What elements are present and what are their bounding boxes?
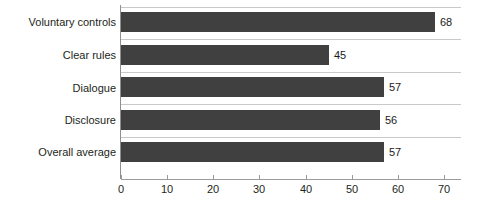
x-tick-label-70: 70 (438, 183, 450, 195)
bar-dialogue (121, 77, 384, 97)
x-tick-mark (398, 175, 399, 180)
x-tick-label-30: 30 (253, 183, 265, 195)
category-label-dialogue: Dialogue (2, 82, 116, 94)
bar-value-label: 68 (435, 16, 452, 28)
x-tick-label-50: 50 (346, 183, 358, 195)
bar-chart: Voluntary controls Clear rules Dialogue … (0, 0, 484, 211)
category-label-overall-average: Overall average (2, 146, 116, 158)
plot-area: 68 45 57 56 57 (121, 0, 461, 180)
gridline (121, 137, 461, 138)
x-tick-label-20: 20 (207, 183, 219, 195)
bar-value-label: 56 (380, 114, 397, 126)
x-tick-mark (167, 175, 168, 180)
x-tick-mark (213, 175, 214, 180)
bar-value-label: 57 (384, 146, 401, 158)
x-tick-label-10: 10 (161, 183, 173, 195)
bar-disclosure (121, 110, 380, 130)
bar-voluntary-controls (121, 12, 435, 32)
x-axis-line (121, 179, 461, 180)
category-label-clear-rules: Clear rules (2, 49, 116, 61)
category-label-voluntary-controls: Voluntary controls (2, 16, 116, 28)
x-tick-label-40: 40 (300, 183, 312, 195)
x-tick-mark (306, 175, 307, 180)
x-tick-mark (352, 175, 353, 180)
category-axis-labels: Voluntary controls Clear rules Dialogue … (0, 0, 116, 180)
gridline (121, 39, 461, 40)
category-label-disclosure: Disclosure (2, 114, 116, 126)
x-tick-mark (121, 175, 122, 180)
bar-overall-average (121, 142, 384, 162)
x-tick-label-0: 0 (118, 183, 124, 195)
gridline (121, 7, 461, 8)
gridline (121, 104, 461, 105)
y-axis-line (120, 5, 121, 179)
x-tick-mark (259, 175, 260, 180)
gridline (121, 72, 461, 73)
bar-value-label: 57 (384, 81, 401, 93)
bar-value-label: 45 (329, 49, 346, 61)
x-tick-mark (444, 175, 445, 180)
x-tick-label-60: 60 (392, 183, 404, 195)
bar-clear-rules (121, 45, 329, 65)
